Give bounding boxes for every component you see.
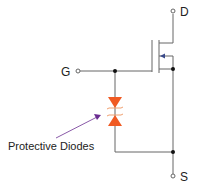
source-label: S [180, 170, 188, 184]
gate-label: G [61, 65, 70, 79]
junction-dot [171, 150, 175, 154]
junction-dot [171, 67, 175, 71]
circuit-diagram: D G S Protective Diodes [0, 0, 198, 186]
drain-terminal [171, 9, 175, 13]
drain-label: D [180, 5, 189, 19]
source-terminal [171, 174, 175, 178]
gate-terminal [76, 69, 80, 73]
protective-diodes-label: Protective Diodes [8, 140, 95, 152]
junction-dot [113, 69, 117, 73]
annotation-arrow-icon [56, 114, 101, 138]
body-arrow-icon [160, 54, 165, 59]
